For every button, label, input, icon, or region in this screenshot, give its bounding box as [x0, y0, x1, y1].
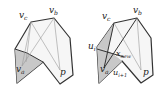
right-figure: vc vb ui xnew va ui+1 p: [88, 5, 153, 83]
label-p: p: [143, 67, 149, 77]
label-ui: ui: [88, 41, 96, 52]
label-vb: vb: [133, 5, 142, 16]
diagram-canvas: vc vb va p vc vb ui xnew va: [0, 0, 168, 92]
label-vb: vb: [49, 5, 58, 16]
label-vc: vc: [19, 10, 28, 21]
label-vc: vc: [102, 11, 111, 22]
label-ui1: ui+1: [113, 68, 127, 78]
left-figure: vc vb va p: [15, 5, 73, 84]
label-p: p: [60, 67, 66, 77]
